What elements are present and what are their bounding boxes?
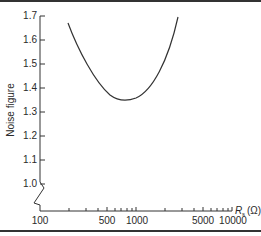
y-tick-label: 1.1 xyxy=(23,154,37,165)
bottom-rule xyxy=(0,230,261,232)
x-axis-label-sub: s xyxy=(242,211,245,217)
y-tick-label: 1.5 xyxy=(23,58,37,69)
y-axis-label: Noise figure xyxy=(5,83,16,137)
x-tick-label: 100 xyxy=(32,215,49,226)
x-tick-label: 5000 xyxy=(192,215,215,226)
noise-figure-chart: 1.7 1.6 1.5 1.4 1.3 1.2 1.1 1.0 Noise fi… xyxy=(0,0,261,236)
y-tick-label: 1.2 xyxy=(23,130,37,141)
y-tick-label: 1.4 xyxy=(23,82,37,93)
y-ticks xyxy=(40,16,45,184)
x-axis-label: R s (Ω) xyxy=(235,205,261,217)
x-ticks xyxy=(69,207,232,211)
x-tick-label: 1000 xyxy=(126,215,149,226)
x-axis-label-unit: (Ω) xyxy=(247,205,261,216)
x-tick-labels: 100 500 1000 5000 10000 xyxy=(32,215,248,226)
y-tick-label: 1.6 xyxy=(23,34,37,45)
noise-figure-curve xyxy=(68,17,178,100)
x-tick-label: 500 xyxy=(99,215,116,226)
y-tick-label: 1.3 xyxy=(23,106,37,117)
y-tick-label: 1.7 xyxy=(23,10,37,21)
y-tick-label: 1.0 xyxy=(23,178,37,189)
y-tick-labels: 1.7 1.6 1.5 1.4 1.3 1.2 1.1 1.0 xyxy=(23,10,37,189)
